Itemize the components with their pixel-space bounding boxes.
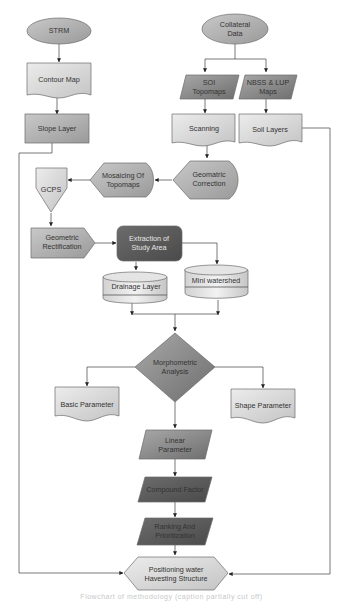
node-label: Maps bbox=[259, 87, 277, 96]
node-extraction-of-study-area: Extraction of Study Area bbox=[117, 226, 182, 261]
node-linear-parameter: Linear Parameter bbox=[139, 430, 212, 459]
node-label: Positioning water bbox=[149, 565, 204, 574]
node-geomatric-correction: Geomatric Correction bbox=[173, 161, 238, 199]
figure-caption: Flowchart of methodology (caption partia… bbox=[0, 593, 343, 600]
node-label: Analysis bbox=[162, 367, 189, 376]
node-label: Data bbox=[227, 29, 242, 38]
node-label: Slope Layer bbox=[38, 124, 77, 133]
node-strm: STRM bbox=[27, 18, 91, 44]
node-contour-map: Contour Map bbox=[27, 63, 91, 98]
node-nbss-lup-maps: NBSS & LUP Maps bbox=[239, 75, 297, 99]
node-slope-layer: Slope Layer bbox=[25, 114, 89, 143]
node-label: Parameter bbox=[158, 445, 192, 454]
node-mosaicing-of-topomaps: Mosaicing Of Topomaps bbox=[90, 163, 154, 197]
node-mini-watershed: Mini watershed bbox=[185, 265, 249, 298]
node-ranking-and-prioritization: Ranking And Prioritization bbox=[137, 518, 213, 545]
node-label: Prioritization bbox=[155, 531, 195, 540]
edge-soil-positioning bbox=[229, 128, 330, 574]
node-positioning-water-harvesting-structure: Positioning water Havesting Structure bbox=[124, 557, 228, 590]
node-label: Topomaps bbox=[192, 87, 226, 96]
node-gcps: GCPS bbox=[36, 168, 67, 212]
node-label: Morphometric bbox=[153, 358, 197, 367]
node-soil-layers: Soil Layers bbox=[239, 114, 302, 146]
node-label: Topomaps bbox=[106, 180, 140, 189]
node-label: Contour Map bbox=[38, 75, 80, 84]
node-basic-parameter: Basic Parameter bbox=[55, 387, 119, 421]
node-label: STRM bbox=[49, 26, 69, 35]
node-label: Drainage Layer bbox=[111, 282, 161, 291]
node-label: Basic Parameter bbox=[60, 400, 114, 409]
node-compound-factor: Compound Factor bbox=[138, 477, 212, 502]
edge-morpho-basic bbox=[87, 367, 135, 386]
node-label: Soil Layers bbox=[252, 125, 288, 134]
node-label: Linear bbox=[165, 436, 186, 445]
edge-morpho-shape bbox=[215, 367, 263, 388]
node-label: Compound Factor bbox=[146, 485, 204, 494]
methodology-flowchart: STRM Collateral Data Contour Map SOI Top… bbox=[0, 0, 343, 602]
edge-collateral-soi bbox=[205, 44, 235, 72]
node-label: Extraction of bbox=[129, 234, 169, 243]
node-collateral-data: Collateral Data bbox=[202, 14, 268, 44]
node-label: Collateral bbox=[220, 20, 251, 29]
node-label: SOI bbox=[203, 78, 215, 87]
node-soi-topomaps: SOI Topomaps bbox=[180, 75, 239, 99]
node-label: Mosaicing Of bbox=[102, 171, 144, 180]
node-label: GCPS bbox=[41, 185, 62, 194]
node-label: Shape Parameter bbox=[235, 401, 292, 410]
node-shape-parameter: Shape Parameter bbox=[231, 389, 295, 423]
node-drainage-layer: Drainage Layer bbox=[103, 272, 167, 303]
node-label: Study Area bbox=[131, 243, 166, 252]
edge-slope-positioning bbox=[19, 143, 123, 573]
node-label: NBSS & LUP bbox=[247, 78, 290, 87]
node-label: Geomatric bbox=[192, 170, 226, 179]
node-scanning: Scanning bbox=[172, 114, 235, 146]
node-geometric-rectification: Geometric Rectification bbox=[31, 228, 95, 258]
node-label: Havesting Structure bbox=[144, 574, 207, 583]
node-label: Rectification bbox=[42, 242, 81, 251]
edge-extract-mini bbox=[182, 243, 217, 264]
node-label: Ranking And bbox=[155, 522, 196, 531]
node-label: Correction bbox=[192, 179, 225, 188]
node-label: Scanning bbox=[189, 124, 219, 133]
node-label: Mini watershed bbox=[192, 276, 240, 285]
node-morphometric-analysis: Morphometric Analysis bbox=[135, 333, 215, 402]
edge-collateral-nbss bbox=[235, 59, 266, 72]
node-label: Geometric bbox=[45, 233, 79, 242]
